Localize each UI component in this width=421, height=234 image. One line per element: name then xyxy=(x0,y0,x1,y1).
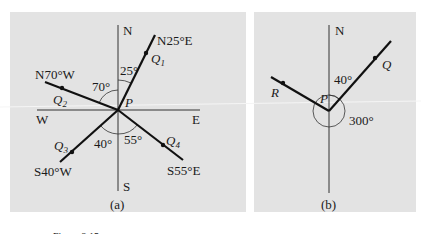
point-q3-dot xyxy=(70,150,74,154)
label-west-a: W xyxy=(36,112,49,127)
label-origin-p-b: P xyxy=(319,91,328,106)
angle-label-55: 55° xyxy=(124,132,142,147)
label-south-a: S xyxy=(123,179,130,194)
bearing-label-q2: N70°W xyxy=(35,67,76,82)
bearing-label-q1: N25°E xyxy=(157,33,193,48)
angle-label-70: 70° xyxy=(92,79,110,94)
point-label-q-b: Q xyxy=(382,57,392,72)
panel-b-label: (b) xyxy=(321,197,336,212)
point-q1-dot xyxy=(144,51,148,55)
label-north-b: N xyxy=(335,23,345,38)
label-east-a: E xyxy=(192,112,200,127)
panel-b-background xyxy=(254,12,416,212)
label-north-a: N xyxy=(123,23,133,38)
bearing-label-q3: S40°W xyxy=(34,164,72,179)
angle-label-40-b: 40° xyxy=(334,72,352,87)
point-q4-dot xyxy=(161,143,165,147)
point-q2-dot xyxy=(60,86,64,90)
angle-label-300-b: 300° xyxy=(349,113,374,128)
point-r-dot-b xyxy=(281,81,285,85)
angle-label-40: 40° xyxy=(94,136,112,151)
point-q-dot-b xyxy=(373,56,377,60)
angle-label-25: 25° xyxy=(120,63,138,78)
bearing-label-q4: S55°E xyxy=(167,163,200,178)
point-label-r-b: R xyxy=(270,85,279,100)
figure-caption-partial: Figure 2.15 xyxy=(53,231,99,234)
label-origin-p-a: P xyxy=(124,95,133,110)
bearings-figure: N S W E P N25°E N70°W S40°W S55°E Q1 Q2 … xyxy=(0,0,421,234)
panel-a-label: (a) xyxy=(110,197,124,212)
